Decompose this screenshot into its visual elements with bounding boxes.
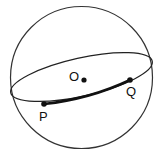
label-q: Q xyxy=(126,84,136,99)
point-p-dot xyxy=(41,101,47,107)
great-circle xyxy=(7,43,157,112)
label-p: P xyxy=(39,109,48,124)
point-q-dot xyxy=(127,77,133,83)
label-o: O xyxy=(69,69,79,84)
point-o-dot xyxy=(81,77,86,82)
sphere-diagram: O P Q xyxy=(0,0,163,153)
